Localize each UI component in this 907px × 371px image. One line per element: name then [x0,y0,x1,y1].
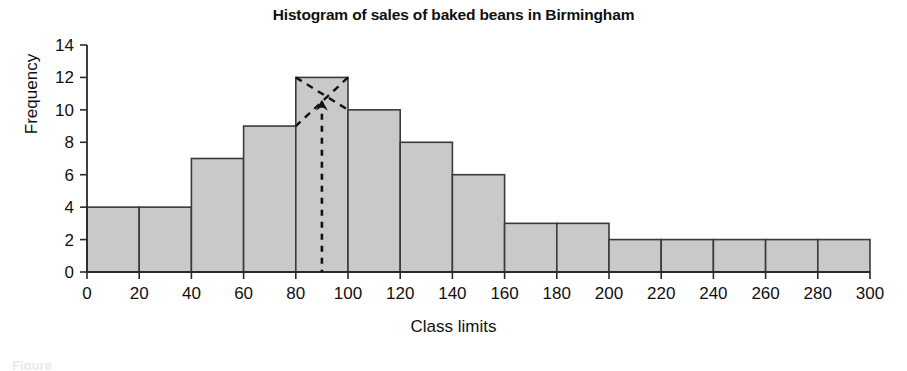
x-tick-label: 140 [438,284,466,303]
x-tick-label: 260 [751,284,779,303]
y-tick-label: 10 [55,101,74,120]
figure-caption-clipped: Figure [12,358,432,370]
x-tick-label: 80 [286,284,305,303]
histogram-bar [505,223,557,272]
x-tick-label: 160 [490,284,518,303]
bars-group [87,77,870,272]
histogram-bar [713,240,765,272]
y-tick-label: 14 [55,36,74,55]
x-tick-label: 100 [334,284,362,303]
histogram-figure: Histogram of sales of baked beans in Bir… [0,0,907,371]
histogram-bar [87,207,139,272]
x-tick-label: 180 [543,284,571,303]
x-tick-label: 280 [804,284,832,303]
histogram-bar [452,175,504,272]
x-tick-label: 300 [856,284,884,303]
x-tick-label: 220 [647,284,675,303]
x-tick-label: 60 [234,284,253,303]
y-tick-label: 8 [65,133,74,152]
histogram-bar [139,207,191,272]
y-tick-label: 6 [65,166,74,185]
x-tick-label: 240 [699,284,727,303]
histogram-bar [400,142,452,272]
y-tick-labels: 02468101214 [55,36,74,282]
histogram-bar [609,240,661,272]
y-tick-label: 2 [65,231,74,250]
x-tick-labels: 0204060801001201401601802002202402602803… [82,284,884,303]
histogram-bar [244,126,296,272]
histogram-bar [191,159,243,273]
histogram-bar [766,240,818,272]
y-tick-label: 0 [65,263,74,282]
x-tick-label: 0 [82,284,91,303]
x-tick-label: 20 [130,284,149,303]
histogram-bar [818,240,870,272]
x-tick-label: 200 [595,284,623,303]
histogram-bar [557,223,609,272]
y-tick-label: 4 [65,198,74,217]
y-tick-label: 12 [55,68,74,87]
histogram-bar [661,240,713,272]
histogram-bar [348,110,400,272]
x-tick-label: 40 [182,284,201,303]
plot-area: 0204060801001201401601802002202402602803… [0,0,907,371]
x-tick-label: 120 [386,284,414,303]
